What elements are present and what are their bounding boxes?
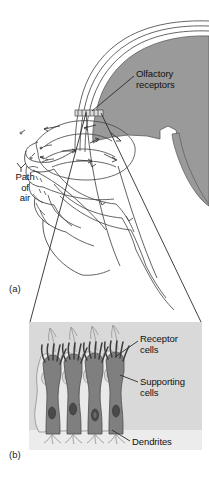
air-path-arrowheads — [90, 162, 133, 221]
pharynx-structures — [54, 169, 174, 310]
odor-molecule-marks — [20, 130, 42, 159]
olfactory-figure — [0, 0, 209, 479]
label-path-of-air: Pathofair — [8, 172, 42, 204]
panel-a-head-section — [17, 21, 209, 310]
olfactory-epithelium — [75, 110, 103, 116]
oral-cavity — [43, 187, 114, 275]
label-supporting-cells: Supportingcells — [140, 377, 185, 398]
nasal-cavity — [36, 121, 135, 180]
label-receptor-cells: Receptorcells — [140, 334, 178, 355]
panel-label-a: (a) — [9, 283, 21, 294]
label-olfactory-receptors: Olfactoryreceptors — [136, 69, 175, 90]
label-dendrites: Dendrites — [132, 437, 172, 448]
panel-label-b: (b) — [9, 449, 21, 460]
